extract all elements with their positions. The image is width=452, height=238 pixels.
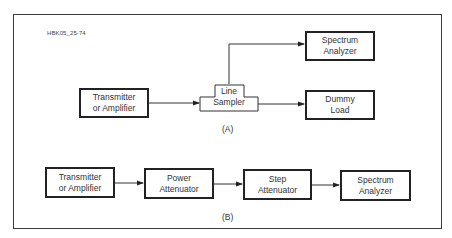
block-label: Dummy Load: [325, 94, 354, 116]
block-a-spectrum-analyzer: Spectrum Analyzer: [305, 31, 375, 61]
caption-b: (B): [222, 212, 233, 222]
block-label: Step Attenuator: [258, 174, 297, 196]
block-b-power-attenuator: Power Attenuator: [144, 168, 214, 199]
arrow-sampler-to-analyzer: [229, 44, 304, 84]
block-a-line-sampler: Line Sampler: [200, 86, 258, 108]
block-b-step-attenuator: Step Attenuator: [243, 169, 312, 200]
block-b-transmitter: Transmitter or Amplifier: [45, 167, 115, 198]
block-b-spectrum-analyzer: Spectrum Analyzer: [340, 170, 411, 201]
caption-a: (A): [222, 124, 233, 134]
block-label: Spectrum Analyzer: [322, 35, 358, 57]
connection-lines: [0, 0, 452, 238]
block-a-dummy-load: Dummy Load: [305, 90, 375, 120]
block-a-transmitter: Transmitter or Amplifier: [79, 88, 149, 118]
block-label: Transmitter or Amplifier: [93, 92, 136, 114]
block-label: Transmitter or Amplifier: [59, 172, 102, 194]
block-label: Spectrum Analyzer: [357, 175, 393, 197]
block-label: Power Attenuator: [159, 173, 198, 195]
